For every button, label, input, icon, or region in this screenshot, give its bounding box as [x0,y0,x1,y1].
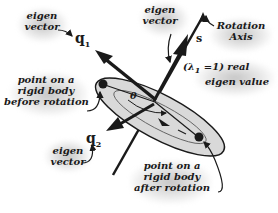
label-line: after rotation [130,182,214,193]
label-line: point on a [4,74,88,85]
label-eigen-value: (λ1 =1) real eigen value [183,61,273,87]
label-line: rigid body [4,85,88,96]
symbol-base: q [86,130,96,146]
symbol-s: s [196,32,202,45]
label-line: eigen [48,145,88,156]
label-line: eigen [140,4,180,15]
label-line: rigid body [130,171,214,182]
symbol-q1: q1 [75,30,90,49]
symbol-subscript: 2 [96,139,102,149]
label-line: eigen value [183,76,273,87]
symbol-base: q [75,30,85,46]
symbol-subscript: 1 [85,39,91,49]
label-line: vector [140,15,180,26]
label-line: vector [48,156,88,167]
label-rotation-axis: Rotation Axis [212,20,270,42]
label-line: eigen [20,10,64,21]
label-line: Rotation [212,20,270,31]
label-point-after-rotation: point on a rigid body after rotation [130,160,214,193]
label-line: before rotation [4,96,88,107]
label-eigen-vector-q1: eigen vector [20,10,64,32]
point-after-rotation [195,133,204,142]
label-point-before-rotation: point on a rigid body before rotation [4,74,88,107]
point-before-rotation [99,80,108,89]
label-line: Axis [212,31,270,42]
symbol-theta: θ [130,90,137,101]
label-line: (λ1 =1) real [183,61,273,76]
diagram-canvas: eigen vector q1 eigen vector s Rotation … [0,0,278,213]
label-eigen-vector-s: eigen vector [140,4,180,26]
lambda-text: (λ [183,61,195,72]
symbol-q2: q2 [86,130,101,149]
label-eigen-vector-q2: eigen vector [48,145,88,167]
label-line: point on a [130,160,214,171]
eigen-value-text: =1) real [200,61,249,72]
label-line: vector [20,21,64,32]
